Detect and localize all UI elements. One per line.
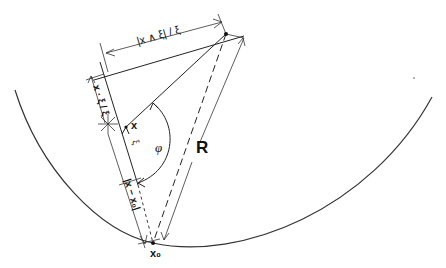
top-arrow-left xyxy=(106,49,115,56)
left-ext-top xyxy=(86,74,104,80)
stray-dot xyxy=(413,77,415,79)
label-x: x xyxy=(131,119,138,131)
label-radius: R xyxy=(196,138,208,157)
p-extension xyxy=(226,34,244,38)
line-x-to-p xyxy=(126,34,226,127)
radius-arrow-bottom xyxy=(161,232,169,240)
label-x0: x₀ xyxy=(150,247,161,259)
label-top-dimension: |x ∧ ξ| / ξ xyxy=(135,23,181,47)
radius-line xyxy=(153,34,226,243)
origin-star-icon xyxy=(98,114,118,134)
label-xi: ξ xyxy=(129,138,142,146)
label-phi: φ xyxy=(155,140,162,155)
geometry-diagram: |x ∧ ξ| / ξ x · ξ / ξ x ξ φ R |x − x₀| x… xyxy=(0,0,446,268)
radius-dimension-line-2 xyxy=(164,162,192,240)
point-x xyxy=(124,125,127,128)
perpendicular-line xyxy=(94,36,244,80)
point-x0 xyxy=(151,241,155,245)
point-p xyxy=(224,32,228,36)
top-ext-left xyxy=(100,43,108,72)
angle-arrow-bottom xyxy=(138,178,145,187)
circle-arc xyxy=(15,90,432,247)
